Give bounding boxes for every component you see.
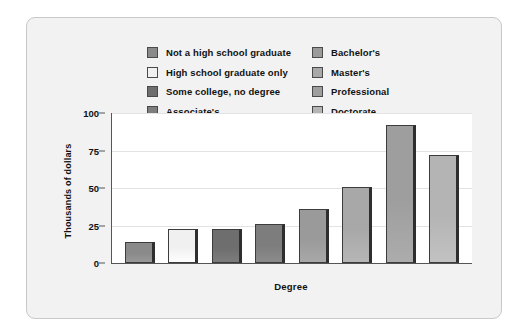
legend-swatch-icon — [147, 67, 158, 78]
legend-item-some-college-no-degree: Some college, no degree — [147, 83, 312, 100]
y-axis-title-text: Thousands of dollars — [62, 143, 72, 238]
chart-legend: Not a high school graduate High school g… — [147, 44, 477, 120]
y-axis-ticks: 0255075100 — [75, 113, 105, 263]
legend-column-left: Not a high school graduate High school g… — [147, 44, 312, 120]
chart-bar — [342, 187, 372, 264]
chart-plot-area: Thousands of dollars 0255075100 Degree — [61, 113, 477, 303]
legend-column-right: Bachelor's Master's Professional Doctora… — [312, 44, 477, 120]
chart-bar — [386, 125, 416, 263]
chart-axes — [111, 113, 472, 264]
legend-label: Professional — [331, 86, 389, 97]
chart-bar — [212, 229, 242, 264]
legend-swatch-icon — [312, 67, 323, 78]
y-axis-tick-mark — [99, 150, 105, 151]
legend-item-professional: Professional — [312, 83, 477, 100]
chart-figure-panel: Not a high school graduate High school g… — [26, 17, 502, 319]
y-axis-tick-label: 100 — [83, 108, 99, 119]
y-axis-tick-label: 75 — [88, 145, 99, 156]
y-axis-tick-label: 50 — [88, 183, 99, 194]
y-axis-title: Thousands of dollars — [59, 121, 75, 261]
y-axis-tick-mark — [99, 113, 105, 114]
chart-bar — [299, 209, 329, 263]
chart-bar — [125, 242, 155, 263]
y-axis-tick-mark — [99, 225, 105, 226]
legend-item-masters: Master's — [312, 64, 477, 81]
legend-item-high-school-graduate-only: High school graduate only — [147, 64, 312, 81]
legend-swatch-icon — [147, 47, 158, 58]
y-axis-tick-mark — [99, 188, 105, 189]
y-axis-tick-label: 25 — [88, 220, 99, 231]
chart-bars — [112, 113, 472, 263]
legend-label: Some college, no degree — [166, 86, 280, 97]
legend-item-not-a-high-school-graduate: Not a high school graduate — [147, 44, 312, 61]
legend-swatch-icon — [312, 47, 323, 58]
legend-label: Master's — [331, 67, 370, 78]
chart-bar — [429, 155, 459, 263]
legend-label: Not a high school graduate — [166, 47, 291, 58]
legend-swatch-icon — [312, 86, 323, 97]
legend-item-bachelors: Bachelor's — [312, 44, 477, 61]
legend-swatch-icon — [147, 86, 158, 97]
y-axis-tick-mark — [99, 263, 105, 264]
legend-label: Bachelor's — [331, 47, 380, 58]
legend-label: High school graduate only — [166, 67, 288, 78]
x-axis-title: Degree — [111, 281, 471, 292]
chart-bar — [168, 229, 198, 264]
chart-bar — [255, 224, 285, 263]
